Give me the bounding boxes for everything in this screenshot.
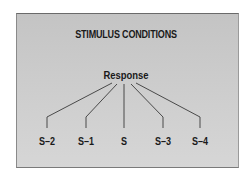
connector-s-1 bbox=[86, 84, 117, 128]
connector-s-2 bbox=[47, 83, 112, 128]
tree-connectors bbox=[0, 0, 252, 180]
leaf-s: S bbox=[111, 136, 138, 147]
connector-s-3 bbox=[131, 84, 163, 128]
leaf-s-4: S–4 bbox=[187, 136, 214, 147]
connector-s-4 bbox=[136, 83, 200, 128]
leaf-s-1: S–1 bbox=[73, 136, 100, 147]
leaf-s-2: S–2 bbox=[34, 136, 61, 147]
leaf-s-3: S–3 bbox=[150, 136, 177, 147]
